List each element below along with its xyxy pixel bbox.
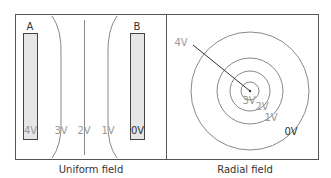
- diagram-canvas: A B 4V 3V 2V 1V 0V Uniform field 4V 3V 2…: [0, 0, 331, 178]
- equipotential-3v-line: [52, 16, 61, 158]
- radius-line: [193, 45, 250, 91]
- plate-a-label: A: [27, 21, 34, 32]
- equipotential-1v-line: [108, 16, 117, 158]
- uniform-field-panel: A B 4V 3V 2V 1V 0V Uniform field: [24, 16, 145, 175]
- radial-label-4v: 4V: [174, 37, 187, 48]
- potential-label-1v: 1V: [101, 125, 114, 136]
- potential-label-3v: 3V: [54, 125, 67, 136]
- radial-field-panel: 4V 3V 2V 1V 0V Radial field: [174, 32, 309, 175]
- potential-label-0v: 0V: [131, 125, 144, 136]
- plate-a: [24, 34, 38, 140]
- radial-label-0v: 0V: [284, 126, 297, 137]
- uniform-field-caption: Uniform field: [59, 164, 124, 175]
- radial-label-2v: 2V: [255, 101, 268, 112]
- radial-label-3v: 3V: [242, 95, 255, 106]
- potential-label-4v: 4V: [24, 125, 37, 136]
- plate-b: [131, 34, 145, 140]
- center-point: [249, 90, 251, 92]
- radial-label-1v: 1V: [264, 112, 277, 123]
- radial-field-caption: Radial field: [217, 164, 273, 175]
- plate-b-label: B: [134, 21, 141, 32]
- potential-label-2v: 2V: [77, 125, 90, 136]
